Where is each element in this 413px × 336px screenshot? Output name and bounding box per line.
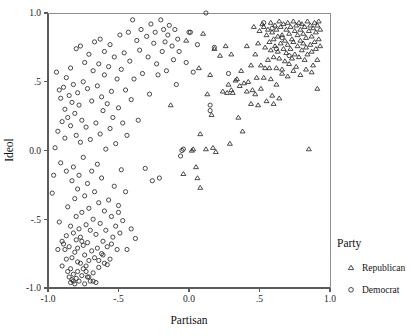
- data-point-circle: [125, 133, 129, 137]
- data-point-triangle: [281, 46, 286, 50]
- data-point-circle: [118, 33, 122, 37]
- data-point-triangle: [304, 35, 309, 39]
- data-point-circle: [121, 121, 125, 125]
- data-point-circle: [77, 173, 81, 177]
- data-point-circle: [77, 103, 81, 107]
- data-point-circle: [74, 133, 78, 137]
- data-point-circle: [81, 243, 85, 247]
- data-point-circle: [88, 228, 92, 232]
- data-point-circle: [83, 253, 87, 257]
- data-point-circle: [71, 165, 75, 169]
- data-point-circle: [92, 190, 96, 194]
- data-point-triangle: [289, 56, 294, 60]
- x-tick-label: 0.0: [183, 294, 195, 304]
- data-point-triangle: [229, 52, 234, 56]
- data-point-circle: [163, 40, 167, 44]
- data-point-circle: [56, 247, 60, 251]
- data-point-circle: [95, 246, 99, 250]
- y-tick-label: 1.0: [29, 8, 41, 18]
- data-point-triangle: [309, 34, 314, 38]
- data-point-circle: [57, 88, 61, 92]
- data-point-triangle: [251, 24, 256, 28]
- data-point-circle: [80, 239, 84, 243]
- data-point-triangle: [292, 29, 297, 33]
- data-point-circle: [83, 194, 87, 198]
- data-point-triangle: [223, 44, 228, 48]
- legend-entry-label: Democrat: [362, 285, 400, 295]
- data-point-triangle: [305, 19, 310, 23]
- data-point-triangle: [181, 172, 186, 176]
- data-point-circle: [84, 264, 88, 268]
- legend-entry-republican[interactable]: Republican: [348, 263, 405, 273]
- data-point-circle: [68, 224, 72, 228]
- data-point-triangle: [258, 86, 263, 90]
- data-point-triangle: [229, 88, 234, 92]
- data-point-circle: [92, 256, 96, 260]
- data-points: [50, 11, 322, 286]
- data-point-triangle: [309, 70, 314, 74]
- data-point-triangle: [254, 75, 259, 79]
- y-tick-label: .5: [34, 77, 41, 87]
- data-point-circle: [95, 162, 99, 166]
- data-point-circle: [135, 38, 139, 42]
- data-point-triangle: [291, 68, 296, 72]
- data-point-circle: [90, 249, 94, 253]
- data-point-circle: [70, 100, 74, 104]
- data-point-circle: [81, 155, 85, 159]
- data-point-triangle: [264, 99, 269, 103]
- data-point-circle: [123, 190, 127, 194]
- data-point-circle: [94, 232, 98, 236]
- data-point-circle: [104, 147, 108, 151]
- data-point-triangle: [261, 75, 266, 79]
- data-point-triangle: [315, 86, 320, 90]
- data-point-circle: [159, 18, 163, 22]
- data-point-circle: [71, 272, 75, 276]
- data-point-circle: [114, 224, 118, 228]
- data-point-triangle: [274, 66, 279, 70]
- data-point-triangle: [277, 19, 282, 23]
- data-point-circle: [73, 197, 77, 201]
- legend-entry-democrat[interactable]: Democrat: [349, 285, 400, 295]
- data-point-circle: [115, 77, 119, 81]
- data-point-circle: [87, 206, 91, 210]
- data-point-circle: [173, 27, 177, 31]
- data-point-circle: [164, 69, 168, 73]
- data-point-triangle: [316, 37, 321, 41]
- data-point-triangle: [244, 89, 249, 93]
- data-point-circle: [59, 96, 63, 100]
- data-point-triangle: [213, 150, 218, 154]
- data-point-triangle: [288, 46, 293, 50]
- data-point-triangle: [218, 53, 223, 57]
- data-point-triangle: [318, 27, 323, 31]
- data-point-circle: [184, 60, 188, 64]
- data-point-circle: [108, 257, 112, 261]
- data-point-circle: [111, 235, 115, 239]
- series-republican: [168, 19, 322, 189]
- data-point-circle: [98, 132, 102, 136]
- data-point-circle: [170, 44, 174, 48]
- data-point-circle: [139, 27, 143, 31]
- data-point-circle: [66, 205, 70, 209]
- data-point-circle: [95, 84, 99, 88]
- y-tick-label: -1.0: [26, 283, 41, 293]
- data-point-circle: [74, 47, 78, 51]
- data-point-circle: [166, 33, 170, 37]
- data-point-circle: [74, 238, 78, 242]
- data-point-triangle: [277, 96, 282, 100]
- data-point-circle: [76, 269, 80, 273]
- data-point-triangle: [318, 44, 323, 48]
- data-point-triangle: [253, 52, 258, 56]
- x-tick-label: .5: [256, 294, 263, 304]
- data-point-circle: [85, 241, 89, 245]
- data-point-circle: [78, 140, 82, 144]
- data-point-circle: [74, 214, 78, 218]
- data-point-circle: [116, 106, 120, 110]
- data-point-circle: [71, 231, 75, 235]
- data-point-triangle: [287, 31, 292, 35]
- data-point-circle: [84, 269, 88, 273]
- data-point-circle: [108, 126, 112, 130]
- data-point-circle: [90, 99, 94, 103]
- data-point-circle: [77, 279, 81, 283]
- y-tick-label: -.5: [31, 215, 42, 225]
- data-point-circle: [61, 85, 65, 89]
